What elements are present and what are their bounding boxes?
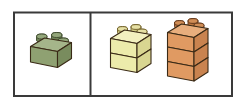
yellow-stud-back-right-top [131, 25, 141, 30]
orange-stud-back-right-top [188, 19, 198, 24]
figure-canvas [0, 0, 245, 104]
lego-brick-figure [0, 0, 245, 104]
green-stud-back-right-top [52, 33, 62, 38]
